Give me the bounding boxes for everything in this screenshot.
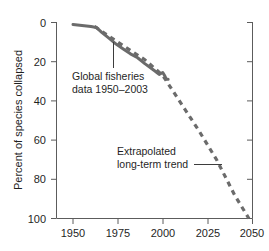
series-extrapolated-trend	[95, 26, 249, 218]
y-tick-label-80: 80	[34, 173, 46, 185]
annotation-extrapolated-line1: Extrapolated	[117, 145, 176, 157]
axis-right	[247, 22, 253, 219]
line-chart: 0 20 40 60 80 100 1950 1975 2000 2025 20…	[0, 0, 269, 251]
y-tick-label-100: 100	[28, 213, 46, 225]
y-axis-title: Percent of species collapsed	[12, 50, 24, 190]
y-tick-labels: 0 20 40 60 80 100	[28, 17, 46, 225]
x-tick-labels: 1950 1975 2000 2025 2050	[61, 227, 264, 239]
axis-left	[51, 22, 57, 219]
annotation-fisheries-line1: Global fisheries	[72, 70, 144, 82]
y-tick-label-0: 0	[40, 17, 46, 29]
annotation-extrapolated-line2: long-term trend	[117, 158, 188, 170]
x-tick-label-2050: 2050	[240, 227, 264, 239]
annotation-fisheries-line2: data 1950–2003	[72, 83, 148, 95]
x-tick-label-1975: 1975	[106, 227, 130, 239]
y-tick-label-40: 40	[34, 95, 46, 107]
y-tick-label-60: 60	[34, 134, 46, 146]
annotation-fisheries: Global fisheries data 1950–2003	[72, 42, 148, 95]
axis-bottom	[57, 219, 253, 225]
annotation-extrapolated: Extrapolated long-term trend	[117, 145, 222, 170]
y-tick-label-20: 20	[34, 56, 46, 68]
x-tick-label-1950: 1950	[61, 227, 85, 239]
chart-figure: 0 20 40 60 80 100 1950 1975 2000 2025 20…	[0, 0, 269, 251]
x-tick-label-2025: 2025	[196, 227, 220, 239]
x-tick-label-2000: 2000	[151, 227, 175, 239]
